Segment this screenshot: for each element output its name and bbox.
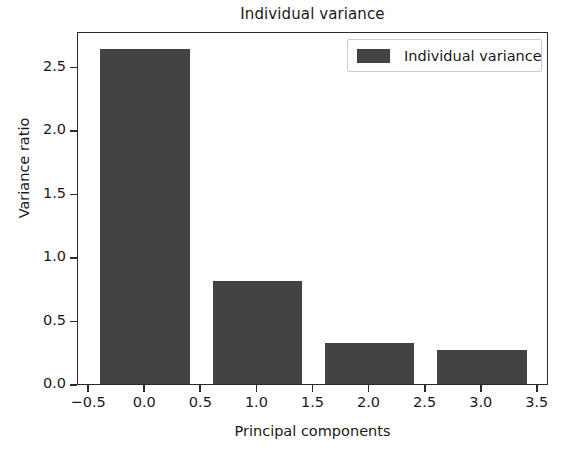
plot-area (77, 32, 548, 385)
bar (100, 49, 190, 384)
x-axis-label: Principal components (77, 423, 548, 439)
chart-title: Individual variance (77, 5, 548, 23)
y-tick-label: 0.0 (43, 375, 66, 391)
x-tick-label: 0.0 (114, 394, 174, 410)
x-tick-label: 2.0 (339, 394, 399, 410)
x-tick-label: −0.5 (58, 394, 118, 410)
chart-figure: Individual variance Variance ratio 0.00.… (0, 0, 569, 458)
x-tick-mark (312, 385, 314, 392)
y-axis-label: Variance ratio (16, 93, 32, 243)
x-tick-label: 3.0 (451, 394, 511, 410)
x-tick-mark (256, 385, 258, 392)
x-tick-mark (143, 385, 145, 392)
y-tick-label: 2.0 (43, 121, 66, 137)
bar (437, 350, 527, 384)
x-tick-mark (424, 385, 426, 392)
bar (325, 343, 415, 384)
y-tick-mark (70, 257, 77, 259)
y-tick-mark (70, 67, 77, 69)
x-tick-mark (199, 385, 201, 392)
x-tick-mark (368, 385, 370, 392)
x-tick-label: 1.0 (226, 394, 286, 410)
x-tick-label: 0.5 (170, 394, 230, 410)
y-tick-label: 1.5 (43, 185, 66, 201)
y-tick-mark (70, 384, 77, 386)
y-tick-mark (70, 130, 77, 132)
x-tick-label: 1.5 (283, 394, 343, 410)
chart-legend: Individual variance (347, 39, 542, 72)
x-tick-mark (536, 385, 538, 392)
y-tick-label: 0.5 (43, 312, 66, 328)
x-tick-label: 3.5 (507, 394, 567, 410)
y-tick-mark (70, 321, 77, 323)
x-tick-mark (480, 385, 482, 392)
legend-label-individual-variance: Individual variance (404, 48, 542, 64)
x-tick-mark (87, 385, 89, 392)
y-tick-mark (70, 194, 77, 196)
legend-swatch-individual-variance (357, 49, 390, 63)
x-tick-label: 2.5 (395, 394, 455, 410)
y-tick-label: 2.5 (43, 58, 66, 74)
y-tick-label: 1.0 (43, 248, 66, 264)
bar (213, 281, 303, 384)
